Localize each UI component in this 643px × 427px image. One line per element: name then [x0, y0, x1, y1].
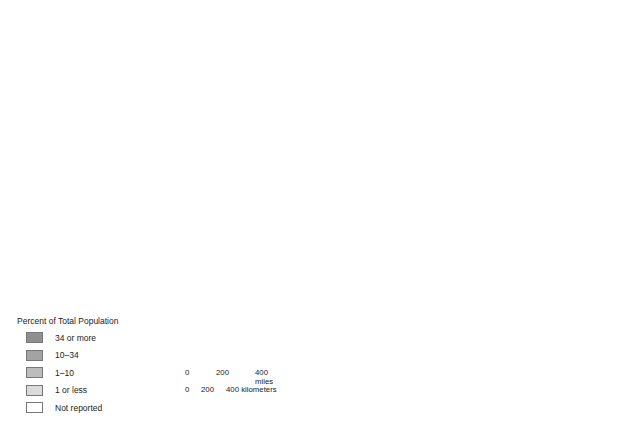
legend-swatch: [26, 350, 43, 361]
map: [14, 17, 314, 317]
legend-swatch: [26, 385, 43, 396]
legend-swatch: [26, 402, 43, 413]
legend-item: Not reported: [17, 399, 177, 417]
legend: Percent of Total Population 34 or more 1…: [17, 316, 177, 417]
legend-title: Percent of Total Population: [17, 316, 177, 326]
legend-item: 34 or more: [17, 329, 177, 347]
scale-bar: 0 200 400 miles 0 200 400 kilometers: [183, 368, 283, 396]
legend-item: 10–34: [17, 347, 177, 365]
legend-swatch: [26, 367, 43, 378]
legend-item: 1 or less: [17, 382, 177, 400]
legend-item: 1–10: [17, 364, 177, 382]
legend-swatch: [26, 332, 43, 343]
